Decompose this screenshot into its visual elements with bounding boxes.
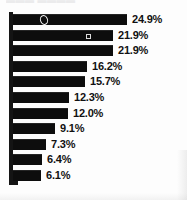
bar-chart: ▬▬▬ ▬▬▬▬ 24.9%21.9%21.9%16.2%15.7%12.3%1… [0, 0, 187, 200]
bar-value-label: 24.9% [132, 12, 162, 26]
bar [13, 92, 69, 103]
bar-value-label: 6.4% [47, 152, 71, 166]
bar-value-label: 7.3% [51, 137, 75, 151]
bar-value-label: 15.7% [90, 74, 120, 88]
bar [13, 14, 127, 25]
bar-value-label: 12.0% [73, 106, 103, 120]
bar [13, 61, 87, 72]
bar-value-label: 21.9% [118, 43, 148, 57]
bar-value-label: 6.1% [46, 168, 70, 182]
bar [13, 170, 41, 181]
bar [13, 76, 85, 87]
bar-value-label: 9.1% [60, 121, 84, 135]
scan-grime-bottom [0, 193, 187, 200]
bar [13, 154, 42, 165]
bar [13, 108, 68, 119]
plot-area: 24.9%21.9%21.9%16.2%15.7%12.3%12.0%9.1%7… [0, 12, 187, 190]
chart-title-remnant: ▬▬▬ ▬▬▬▬ [6, 0, 102, 4]
bar [13, 139, 46, 150]
bar-series: 24.9%21.9%21.9%16.2%15.7%12.3%12.0%9.1%7… [0, 12, 187, 190]
bar-value-label: 16.2% [92, 59, 122, 73]
bar [13, 30, 113, 41]
bar [13, 45, 113, 56]
bar [13, 123, 55, 134]
bar-value-label: 12.3% [74, 90, 104, 104]
bar-value-label: 21.9% [118, 28, 148, 42]
